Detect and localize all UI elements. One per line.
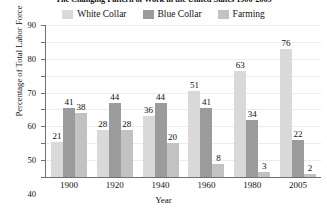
y-axis-tick-label: 90 — [27, 21, 36, 30]
bar-group: 63343 — [229, 25, 275, 177]
bar[interactable]: 44 — [109, 103, 121, 177]
y-axis-tick-label: 70 — [27, 88, 36, 97]
bar-value-label: 2 — [308, 163, 313, 173]
y-axis-tick-label: 50 — [27, 156, 36, 165]
bar-value-label: 44 — [156, 92, 165, 102]
bar-value-label: 76 — [282, 38, 291, 48]
x-axis-tick-label: 1920 — [92, 180, 138, 190]
chart-title: The Changing Pattern of Work in the Unit… — [0, 0, 327, 4]
y-axis-tick-label: 60 — [27, 122, 36, 131]
legend-label-farming: Farming — [233, 9, 265, 19]
bar-value-label: 38 — [76, 102, 85, 112]
bar-value-label: 22 — [294, 129, 303, 139]
bar-value-label: 20 — [168, 132, 177, 142]
bar[interactable]: 8 — [212, 164, 224, 178]
y-axis-title: Percentage of Total Labor Force — [14, 0, 24, 136]
bar-value-label: 21 — [52, 131, 61, 141]
bar-value-label: 36 — [144, 105, 153, 115]
bar[interactable]: 3 — [258, 172, 270, 177]
bar[interactable]: 20 — [167, 143, 179, 177]
bar[interactable]: 63 — [234, 71, 246, 177]
y-axis-tick: 30 — [41, 126, 45, 127]
y-axis-tick: 10 — [41, 160, 45, 161]
bar-group: 364420 — [138, 25, 184, 177]
legend-item-farming: Farming — [218, 9, 265, 19]
y-axis-tick: 40 — [41, 109, 45, 110]
x-axis-line — [45, 177, 321, 178]
bar[interactable]: 38 — [75, 113, 87, 177]
chart-container: The Changing Pattern of Work in the Unit… — [0, 0, 327, 211]
legend-label-white-collar: White Collar — [77, 9, 126, 19]
bar-value-label: 34 — [248, 109, 257, 119]
bar[interactable]: 22 — [292, 140, 304, 177]
bar[interactable]: 2 — [304, 174, 316, 177]
x-axis-tick-label: 1980 — [229, 180, 275, 190]
bar[interactable]: 41 — [63, 108, 75, 177]
y-axis-tick: 90 — [41, 25, 45, 26]
bar[interactable]: 44 — [155, 103, 167, 177]
x-axis-tick-label: 1940 — [138, 180, 184, 190]
bar[interactable]: 21 — [51, 142, 63, 177]
bar[interactable]: 34 — [246, 120, 258, 177]
bar-value-label: 51 — [190, 80, 199, 90]
bar-value-label: 41 — [64, 97, 73, 107]
x-axis-tick-label: 1900 — [46, 180, 92, 190]
bar[interactable]: 28 — [97, 130, 109, 177]
bar[interactable]: 76 — [280, 49, 292, 177]
chart-legend: White Collar Blue Collar Farming — [0, 9, 327, 19]
y-axis-tick-label: 80 — [27, 54, 36, 63]
y-axis-tick: 0 — [41, 177, 45, 178]
legend-swatch-white-collar — [62, 10, 73, 19]
legend-swatch-farming — [218, 10, 229, 19]
y-axis-tick: 60 — [41, 76, 45, 77]
bar-group: 76222 — [275, 25, 321, 177]
y-axis-tick: 80 — [41, 42, 45, 43]
bar-value-label: 63 — [236, 60, 245, 70]
x-axis-tick-label: 2005 — [275, 180, 321, 190]
bar-value-label: 28 — [122, 119, 131, 129]
legend-swatch-blue-collar — [143, 10, 154, 19]
bar-value-label: 41 — [202, 97, 211, 107]
legend-label-blue-collar: Blue Collar — [158, 9, 202, 19]
bar[interactable]: 51 — [188, 91, 200, 177]
bar-group: 284428 — [92, 25, 138, 177]
x-axis-tick-label: 1960 — [183, 180, 229, 190]
legend-item-white-collar: White Collar — [62, 9, 126, 19]
y-axis-tick: 70 — [41, 59, 45, 60]
bars-layer: 214138284428364420514186334376222 — [46, 25, 321, 177]
bar[interactable]: 41 — [200, 108, 212, 177]
bar-group: 214138 — [46, 25, 92, 177]
bar-value-label: 44 — [110, 92, 119, 102]
bar[interactable]: 28 — [121, 130, 133, 177]
x-axis-title: Year — [0, 195, 327, 205]
bar-value-label: 3 — [262, 161, 267, 171]
bar-group: 51418 — [183, 25, 229, 177]
legend-item-blue-collar: Blue Collar — [143, 9, 202, 19]
y-axis-tick: 20 — [41, 143, 45, 144]
bar[interactable]: 36 — [143, 116, 155, 177]
bar-value-label: 28 — [98, 119, 107, 129]
y-axis-tick: 50 — [41, 93, 45, 94]
bar-value-label: 8 — [216, 153, 221, 163]
plot-area: 0102030405060708090 21413828442836442051… — [45, 25, 321, 178]
x-axis-tick-labels: 190019201940196019802005 — [46, 180, 321, 190]
